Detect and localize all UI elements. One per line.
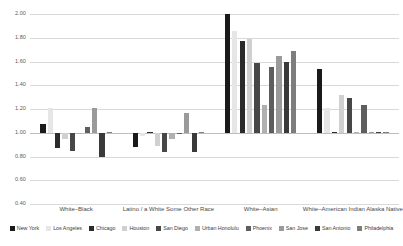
bar <box>376 132 381 133</box>
y-axis-tick-label: 0.40 <box>15 201 26 207</box>
bar <box>361 105 366 132</box>
chart-legend: New YorkLos AngelesChicagoHoustonSan Die… <box>0 226 403 231</box>
legend-swatch-icon <box>10 226 15 231</box>
legend-swatch-icon <box>357 226 362 231</box>
y-axis-tick-label: 2.00 <box>15 11 26 17</box>
y-axis-tick-label: 1.20 <box>15 106 26 112</box>
y-axis-tick-label: 1.00 <box>15 130 26 136</box>
bar <box>269 67 274 132</box>
bar <box>232 31 237 133</box>
bar <box>284 62 289 133</box>
legend-item[interactable]: Urban Honolulu <box>195 226 239 231</box>
legend-item[interactable]: Chicago <box>89 226 115 231</box>
bar <box>324 108 329 133</box>
bar <box>354 132 359 133</box>
bar <box>383 132 388 133</box>
y-axis-tick-label: 1.80 <box>15 35 26 41</box>
bar <box>369 132 374 133</box>
bar <box>70 133 75 151</box>
y-axis-tick-label: 0.60 <box>15 178 26 184</box>
category-label: Latino / a White Some Other Race <box>123 206 214 212</box>
bar <box>77 133 82 134</box>
y-axis-tick-label: 1.40 <box>15 83 26 89</box>
bar <box>107 132 112 133</box>
legend-swatch-icon <box>315 226 320 231</box>
bar <box>162 133 167 152</box>
legend-label: Philadelphia <box>364 226 393 231</box>
legend-swatch-icon <box>89 226 94 231</box>
bar <box>225 14 230 133</box>
bar <box>240 41 245 132</box>
bar <box>332 132 337 133</box>
category-label: White–American Indian Alaska Native <box>303 206 403 212</box>
bar <box>133 133 138 147</box>
category-label: White–Asian <box>244 206 278 212</box>
legend-swatch-icon <box>195 226 200 231</box>
legend-label: New York <box>17 226 39 231</box>
gridline <box>30 204 399 205</box>
bar <box>262 105 267 132</box>
legend-label: Chicago <box>96 226 115 231</box>
bars-container <box>30 14 399 204</box>
bar <box>40 124 45 132</box>
bar <box>99 133 104 157</box>
bar <box>92 108 97 133</box>
legend-label: San Diego <box>163 226 188 231</box>
legend-item[interactable]: Los Angeles <box>46 226 82 231</box>
legend-item[interactable]: New York <box>10 226 39 231</box>
legend-swatch-icon <box>279 226 284 231</box>
category-axis-labels: White–BlackLatino / a White Some Other R… <box>30 206 399 220</box>
legend-label: San Jose <box>286 226 308 231</box>
bar <box>276 56 281 133</box>
legend-item[interactable]: Phoenix <box>246 226 272 231</box>
bar <box>62 133 67 139</box>
bar <box>140 133 145 137</box>
bar <box>192 133 197 152</box>
y-axis-tick-label: 0.80 <box>15 154 26 160</box>
bar <box>199 132 204 133</box>
legend-label: Phoenix <box>253 226 272 231</box>
bar <box>317 69 322 133</box>
plot-area: 0.400.600.801.001.201.401.601.802.00 <box>30 14 399 204</box>
bar <box>48 108 53 133</box>
bar <box>254 63 259 133</box>
legend-swatch-icon <box>46 226 51 231</box>
legend-label: Houston <box>129 226 149 231</box>
legend-item[interactable]: San Antonio <box>315 226 351 231</box>
legend-swatch-icon <box>122 226 127 231</box>
legend-item[interactable]: San Diego <box>156 226 188 231</box>
bar <box>291 51 296 133</box>
bar <box>85 127 90 133</box>
category-label: White–Black <box>59 206 92 212</box>
bar <box>247 39 252 133</box>
bar <box>147 132 152 133</box>
legend-swatch-icon <box>246 226 251 231</box>
legend-item[interactable]: Philadelphia <box>357 226 393 231</box>
legend-label: Urban Honolulu <box>202 226 239 231</box>
bar-chart: 0.400.600.801.001.201.401.601.802.00 Whi… <box>0 0 403 246</box>
bar <box>169 133 174 139</box>
legend-label: San Antonio <box>322 226 351 231</box>
bar <box>339 95 344 133</box>
legend-label: Los Angeles <box>53 226 82 231</box>
legend-swatch-icon <box>156 226 161 231</box>
bar <box>155 133 160 146</box>
legend-item[interactable]: Houston <box>122 226 149 231</box>
y-axis-tick-label: 1.60 <box>15 59 26 65</box>
bar <box>347 98 352 132</box>
bar <box>177 133 182 134</box>
bar <box>184 113 189 133</box>
bar <box>55 133 60 148</box>
legend-item[interactable]: San Jose <box>279 226 308 231</box>
